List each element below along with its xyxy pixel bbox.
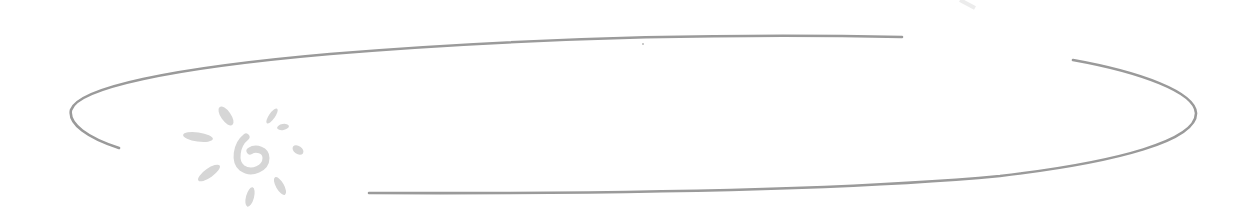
ellipse-arc-bottom-right [369, 60, 1196, 193]
sun-logo-icon [183, 104, 306, 208]
decorative-graphic [0, 0, 1246, 220]
ellipse-frame [0, 0, 1246, 220]
faint-mark [960, 0, 975, 8]
ellipse-arc-top-left [71, 36, 902, 148]
speck [642, 43, 644, 45]
